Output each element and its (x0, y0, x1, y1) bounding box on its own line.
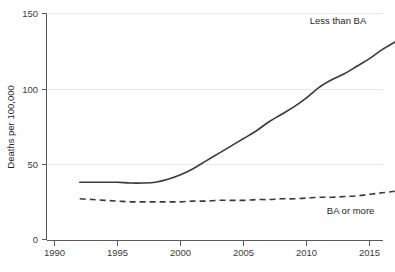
y-tick-label-0: 0 (33, 234, 38, 245)
x-axis: 1990 1995 2000 2005 2010 2015 (44, 241, 383, 259)
chart-canvas: 150 100 50 0 Deaths per 100,000 1990 199… (0, 0, 395, 272)
y-axis: 150 100 50 0 Deaths per 100,000 (5, 8, 47, 245)
y-tick-label-100: 100 (22, 84, 38, 95)
x-tick-label-2000: 2000 (170, 247, 191, 258)
line-chart: 150 100 50 0 Deaths per 100,000 1990 199… (0, 0, 395, 272)
x-tick-label-1995: 1995 (107, 247, 128, 258)
series-label-ba-or-more: BA or more (327, 205, 375, 216)
series-annotations: Less than BA BA or more (310, 15, 375, 216)
grid-lines (48, 14, 384, 165)
x-tick-label-2005: 2005 (233, 247, 254, 258)
series-label-less-than-ba: Less than BA (310, 15, 367, 26)
series-line-ba-or-more (80, 191, 395, 202)
x-tick-label-2010: 2010 (296, 247, 317, 258)
x-tick-label-1990: 1990 (44, 247, 65, 258)
x-tick-label-2015: 2015 (359, 247, 380, 258)
y-axis-title: Deaths per 100,000 (5, 85, 16, 168)
series-group (80, 42, 395, 202)
series-line-less-than-ba (80, 42, 395, 183)
y-tick-label-150: 150 (22, 8, 38, 19)
y-tick-label-50: 50 (27, 159, 38, 170)
